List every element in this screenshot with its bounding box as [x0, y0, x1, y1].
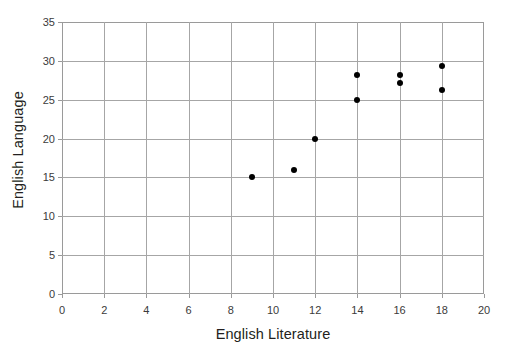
x-tick-mark — [231, 294, 232, 298]
y-tick-mark — [58, 216, 62, 217]
plot-wrapper: 05101520253035 02468101214161820 — [62, 22, 484, 294]
x-tick-mark — [315, 294, 316, 298]
data-point — [397, 80, 403, 86]
scatter-chart-figure: English Language 05101520253035 02468101… — [0, 0, 510, 364]
y-axis-title: English Language — [0, 0, 36, 300]
gridline-horizontal — [62, 255, 484, 256]
x-tick-label: 10 — [267, 304, 279, 316]
x-tick-label: 8 — [228, 304, 234, 316]
data-point — [439, 87, 445, 93]
x-axis-title: English Literature — [62, 326, 484, 342]
x-tick-mark — [484, 294, 485, 298]
y-tick-label: 30 — [43, 55, 55, 67]
x-tick-mark — [442, 294, 443, 298]
gridline-vertical — [400, 22, 401, 294]
x-tick-label: 4 — [143, 304, 149, 316]
x-tick-mark — [357, 294, 358, 298]
y-axis-title-text: English Language — [10, 91, 26, 209]
y-tick-label: 10 — [43, 210, 55, 222]
x-tick-mark — [104, 294, 105, 298]
gridline-horizontal — [62, 216, 484, 217]
y-tick-label: 25 — [43, 94, 55, 106]
y-tick-mark — [58, 139, 62, 140]
gridline-vertical — [146, 22, 147, 294]
x-tick-mark — [273, 294, 274, 298]
x-tick-label: 16 — [393, 304, 405, 316]
x-tick-label: 2 — [101, 304, 107, 316]
data-point — [291, 167, 297, 173]
x-tick-mark — [400, 294, 401, 298]
data-point — [312, 136, 318, 142]
gridline-horizontal — [62, 139, 484, 140]
y-tick-mark — [58, 22, 62, 23]
y-tick-label: 0 — [49, 288, 55, 300]
y-tick-mark — [58, 177, 62, 178]
data-point — [397, 72, 403, 78]
x-tick-mark — [62, 294, 63, 298]
y-tick-label: 15 — [43, 171, 55, 183]
y-tick-mark — [58, 61, 62, 62]
x-tick-label: 6 — [186, 304, 192, 316]
y-tick-label: 35 — [43, 16, 55, 28]
x-tick-mark — [189, 294, 190, 298]
y-tick-mark — [58, 100, 62, 101]
gridline-horizontal — [62, 100, 484, 101]
x-tick-label: 0 — [59, 304, 65, 316]
gridline-vertical — [104, 22, 105, 294]
gridline-vertical — [273, 22, 274, 294]
gridline-vertical — [315, 22, 316, 294]
x-tick-label: 12 — [309, 304, 321, 316]
x-tick-label: 18 — [436, 304, 448, 316]
gridline-horizontal — [62, 177, 484, 178]
gridline-vertical — [231, 22, 232, 294]
x-tick-label: 14 — [351, 304, 363, 316]
x-tick-label: 20 — [478, 304, 490, 316]
gridline-vertical — [189, 22, 190, 294]
y-tick-label: 20 — [43, 133, 55, 145]
gridline-vertical — [357, 22, 358, 294]
y-tick-mark — [58, 255, 62, 256]
gridline-horizontal — [62, 61, 484, 62]
y-tick-label: 5 — [49, 249, 55, 261]
x-tick-mark — [146, 294, 147, 298]
